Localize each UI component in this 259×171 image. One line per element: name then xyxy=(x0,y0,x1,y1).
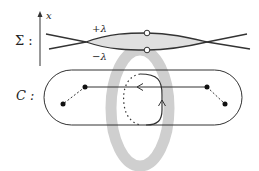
upper-point-marker xyxy=(144,30,150,36)
branch-point xyxy=(83,85,88,90)
lower-point-marker xyxy=(144,47,150,53)
axis-x-label: x xyxy=(46,10,52,21)
sigma-label: Σ : xyxy=(15,33,33,48)
branch-point xyxy=(205,85,210,90)
branch-cut-right xyxy=(207,87,225,104)
curve-c-outline xyxy=(44,70,242,125)
gray-cycle-ring xyxy=(111,50,169,166)
c-label: C : xyxy=(16,88,34,103)
plus-lambda-label: +λ xyxy=(92,23,107,34)
loop-dashed-arc xyxy=(124,74,140,125)
branch-point xyxy=(61,102,66,107)
branch-point xyxy=(223,102,228,107)
sigma-section xyxy=(38,11,251,66)
loop-solid-arc xyxy=(140,74,162,125)
branch-cut-left xyxy=(63,87,85,104)
minus-lambda-label: −λ xyxy=(92,51,107,62)
curve-c-section xyxy=(44,70,242,125)
spectral-network-diagram: Σ : C : x +λ −λ xyxy=(0,0,259,171)
axis-arrow-icon xyxy=(38,11,43,17)
